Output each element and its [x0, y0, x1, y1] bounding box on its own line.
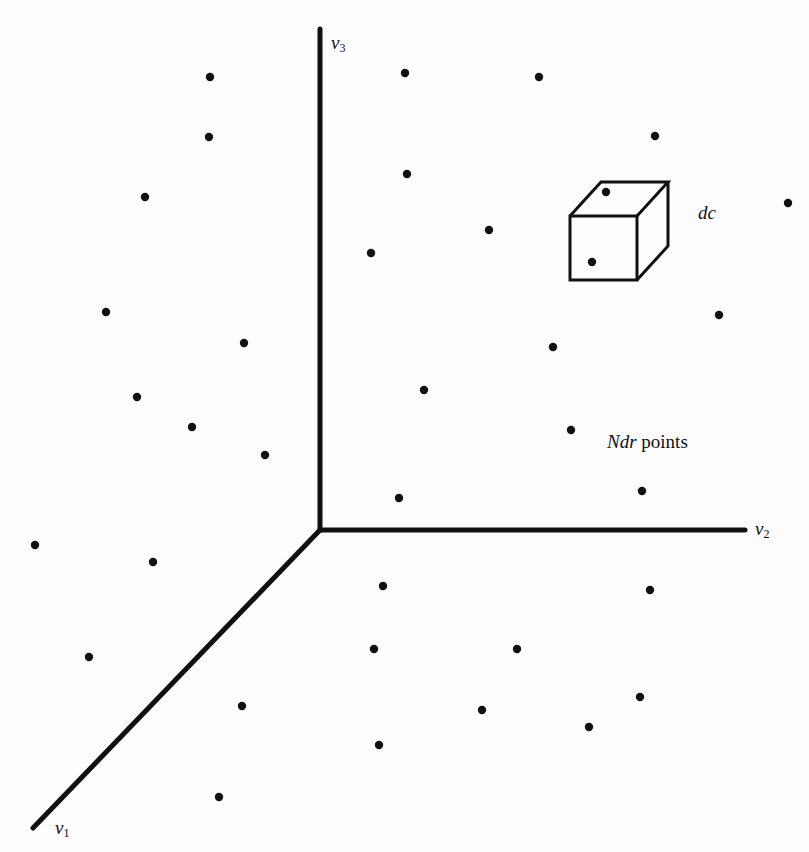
sample-point	[549, 343, 557, 351]
sample-point	[31, 541, 39, 549]
sample-point	[395, 494, 403, 502]
sample-point	[585, 723, 593, 731]
sample-point	[513, 645, 521, 653]
sample-point	[567, 426, 575, 434]
sample-point	[133, 393, 141, 401]
sample-point	[206, 73, 214, 81]
axis-v1	[33, 530, 320, 828]
sample-point	[485, 226, 493, 234]
axis-label-v3: v3	[331, 33, 345, 54]
axis-label-v1-sub: 1	[63, 826, 69, 840]
sample-point	[240, 339, 248, 347]
cube-side-face	[637, 182, 668, 280]
sample-point	[141, 193, 149, 201]
sample-point	[149, 558, 157, 566]
sample-point	[238, 702, 246, 710]
axes	[33, 29, 745, 828]
sample-point	[403, 170, 411, 178]
cube-label-dc: dc	[698, 203, 716, 222]
axis-label-v2-sub: 2	[763, 527, 769, 541]
sample-point	[375, 741, 383, 749]
sample-point	[636, 693, 644, 701]
sample-point	[784, 199, 792, 207]
cube-front-face	[570, 216, 637, 280]
region-label-points: points	[637, 431, 688, 452]
cube-top-face	[570, 182, 668, 216]
sample-point	[85, 653, 93, 661]
sample-point	[205, 133, 213, 141]
sample-point	[367, 249, 375, 257]
cube-inner-point	[588, 258, 596, 266]
sample-point	[651, 132, 659, 140]
sample-point	[420, 386, 428, 394]
sample-point	[379, 582, 387, 590]
scatter-diagram	[0, 0, 809, 852]
cube-volume-element	[570, 182, 668, 280]
sample-point	[535, 73, 543, 81]
sample-point	[715, 311, 723, 319]
axis-label-v1: v1	[55, 818, 69, 839]
sample-point	[401, 69, 409, 77]
sample-point	[261, 451, 269, 459]
sample-point	[646, 586, 654, 594]
sample-point	[478, 706, 486, 714]
region-label-ndr-points: Ndr points	[607, 432, 688, 451]
axis-label-v2: v2	[755, 519, 769, 540]
cube-inner-point	[602, 188, 610, 196]
sample-point	[638, 487, 646, 495]
sample-point	[370, 645, 378, 653]
sample-point	[188, 423, 196, 431]
sample-point	[102, 308, 110, 316]
axis-label-v3-sub: 3	[339, 41, 345, 55]
region-label-ndr: Ndr	[607, 431, 637, 452]
sample-point	[215, 793, 223, 801]
